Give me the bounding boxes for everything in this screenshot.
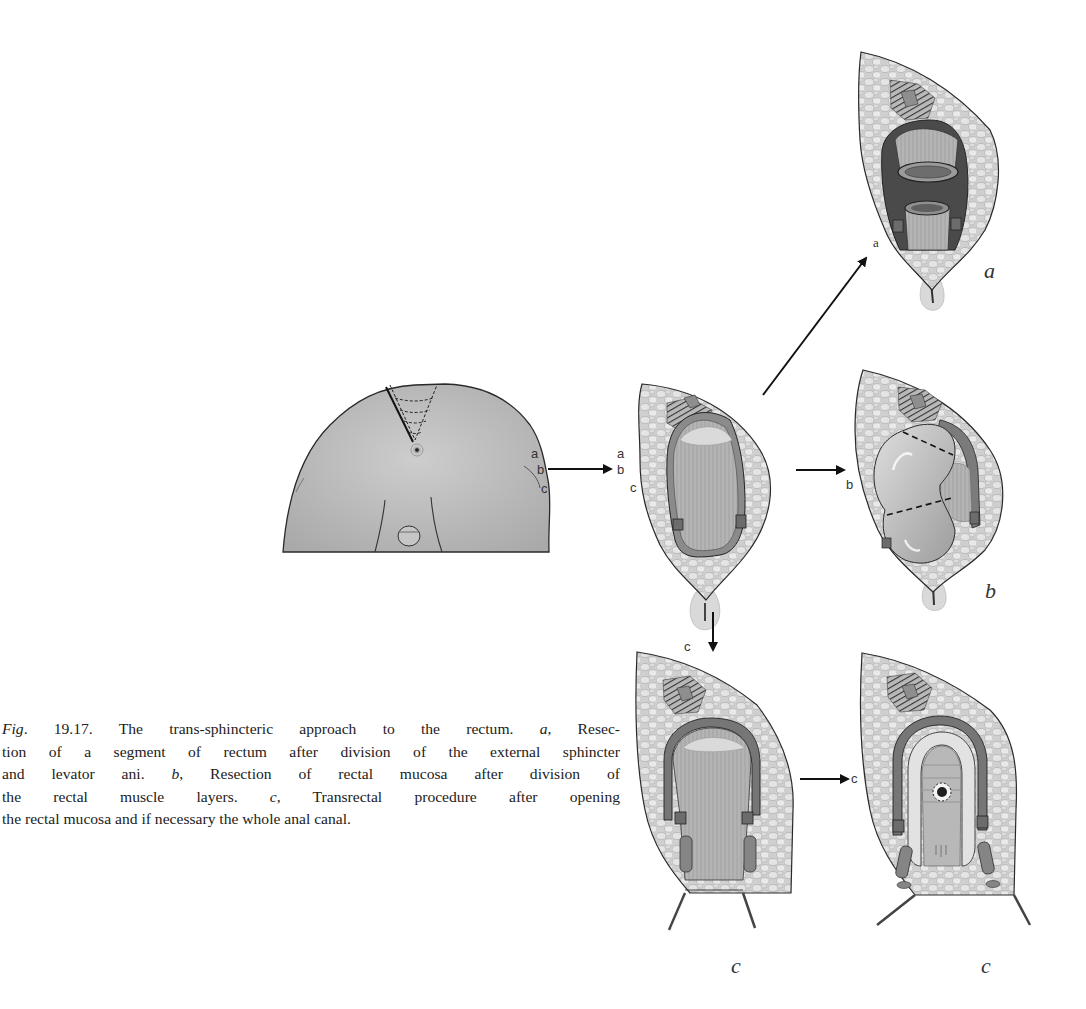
caption-text: and levator ani. — [2, 765, 171, 782]
patient-label-a: a — [531, 447, 538, 460]
panel-label-c2: c — [981, 955, 991, 977]
panel-b-mucosal-resection — [855, 370, 1003, 611]
caption-line: and levator ani. b, Resection of rectal … — [2, 763, 620, 786]
panel-c1-opened-rectum — [636, 652, 793, 932]
arrow-label-c-right: c — [851, 772, 858, 785]
caption-italic-text: c — [270, 788, 277, 805]
panel-label-c1: c — [731, 955, 741, 977]
panel-c2-transrectal-procedure — [860, 653, 1030, 925]
caption-line: the rectal muscle layers. c, Transrectal… — [2, 786, 620, 809]
wound-label-c: c — [630, 481, 637, 494]
arrow-label-c-down: c — [684, 640, 691, 653]
caption-line: the rectal mucosa and if necessary the w… — [2, 808, 620, 831]
arrow-to-panel-a — [763, 258, 866, 395]
caption-line: Fig. 19.17. The trans-sphincteric approa… — [2, 718, 620, 741]
opened-wound-panel — [639, 384, 771, 630]
wound-label-b: b — [617, 463, 624, 476]
caption-text: . 19.17. The trans-sphincteric approach … — [24, 720, 540, 737]
patient-label-c: c — [541, 482, 548, 495]
caption-text: the rectal muscle layers. — [2, 788, 270, 805]
panel-a-segment-resection — [859, 52, 999, 310]
caption-text: , Resection of rectal mucosa after divis… — [179, 765, 620, 782]
patient-buttocks-view — [283, 384, 550, 552]
surgical-illustration — [0, 0, 1086, 1009]
figure-caption: Fig. 19.17. The trans-sphincteric approa… — [2, 718, 620, 831]
panel-label-b: b — [985, 580, 996, 602]
caption-italic-text: Fig — [2, 720, 24, 737]
caption-text: tion of a segment of rectum after divisi… — [2, 743, 620, 760]
patient-label-b: b — [537, 463, 544, 476]
caption-line: tion of a segment of rectum after divisi… — [2, 741, 620, 764]
arrow-label-b: b — [846, 478, 853, 491]
caption-text: , Transrectal procedure after opening — [277, 788, 620, 805]
arrow-label-a: a — [873, 236, 879, 249]
caption-text: the rectal mucosa and if necessary the w… — [2, 810, 351, 827]
caption-text: , Resec- — [547, 720, 620, 737]
wound-label-a: a — [617, 447, 624, 460]
panel-label-a: a — [984, 260, 995, 282]
